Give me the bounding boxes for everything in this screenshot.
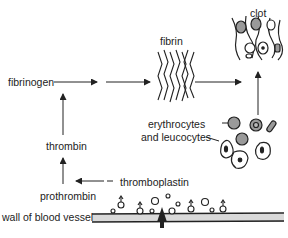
label-fibrin: fibrin [160,35,183,47]
cells-icon [221,117,277,168]
label-prothrombin: prothrombin [40,190,96,202]
fibrin-icon [158,50,194,102]
label-and-leucocytes: and leucocytes [141,131,211,143]
label-thrombin: thrombin [46,140,87,152]
platelets-icon [111,194,226,214]
label-erythrocytes: erythrocytes [148,118,205,130]
label-clot: clot [250,7,266,19]
diagram-canvas [0,0,288,238]
label-thromboplastin: thromboplastin [120,176,189,188]
clot-icon [232,16,283,60]
label-fibrinogen: fibrinogen [8,76,54,88]
label-wall-of-blood-vessel: wall of blood vessel [2,211,93,223]
